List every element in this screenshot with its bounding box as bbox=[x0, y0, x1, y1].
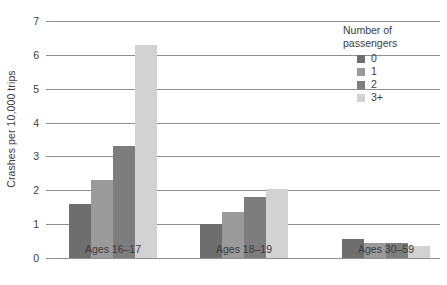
gridline-0: 0 bbox=[46, 258, 440, 259]
legend-swatch-icon bbox=[357, 55, 365, 63]
legend-swatch-icon bbox=[357, 68, 365, 76]
legend-swatch-icon bbox=[357, 81, 365, 89]
y-tick-label-6: 6 bbox=[33, 49, 39, 61]
legend-item-label: 0 bbox=[371, 52, 377, 65]
y-tick-label-1: 1 bbox=[33, 218, 39, 230]
legend-item: 1 bbox=[357, 65, 443, 78]
bar bbox=[135, 45, 157, 258]
y-tick-label-3: 3 bbox=[33, 150, 39, 162]
legend: Number of passengers 0123+ bbox=[343, 24, 443, 104]
y-tick-label-0: 0 bbox=[33, 252, 39, 264]
y-tick-label-5: 5 bbox=[33, 83, 39, 95]
legend-item-label: 2 bbox=[371, 78, 377, 91]
legend-item: 2 bbox=[357, 78, 443, 91]
y-tick-label-4: 4 bbox=[33, 117, 39, 129]
gridline-3: 3 bbox=[46, 156, 440, 157]
legend-item-label: 1 bbox=[371, 65, 377, 78]
y-axis-title-text: Crashes per 10,000 trips bbox=[5, 70, 17, 187]
legend-item-label: 3+ bbox=[371, 91, 383, 104]
y-tick-label-7: 7 bbox=[33, 15, 39, 27]
legend-entries: 0123+ bbox=[343, 52, 443, 104]
legend-item: 0 bbox=[357, 52, 443, 65]
legend-item: 3+ bbox=[357, 91, 443, 104]
bar bbox=[113, 146, 135, 258]
chart-figure: Crashes per 10,000 trips 01234567 Ages 1… bbox=[0, 0, 447, 285]
y-axis-title: Crashes per 10,000 trips bbox=[0, 0, 22, 258]
y-tick-label-2: 2 bbox=[33, 184, 39, 196]
gridline-4: 4 bbox=[46, 123, 440, 124]
legend-swatch-icon bbox=[357, 94, 365, 102]
gridline-7: 7 bbox=[46, 21, 440, 22]
x-axis-label: Ages 16–17 bbox=[85, 243, 141, 255]
legend-title: Number of passengers bbox=[343, 24, 443, 49]
x-axis-label: Ages 30–59 bbox=[358, 243, 414, 255]
x-axis-label: Ages 18–19 bbox=[216, 243, 272, 255]
